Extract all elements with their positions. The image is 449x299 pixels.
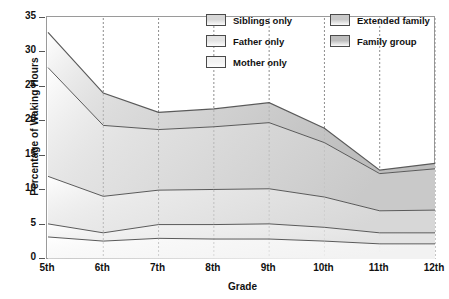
y-tick-mark-10 <box>39 189 45 190</box>
y-tick-mark-35 <box>39 17 45 18</box>
y-tick-label-20: 20 <box>0 113 36 124</box>
x-tick-label-6th: 6th <box>77 262 127 273</box>
x-tick-label-9th: 9th <box>243 262 293 273</box>
y-axis-title: Percentage of Waking Hours <box>29 27 40 227</box>
legend-item-extended-family: Extended family <box>330 14 430 26</box>
legend-label-father-only: Father only <box>233 36 284 47</box>
x-tick-label-7th: 7th <box>133 262 183 273</box>
y-tick-label-35: 35 <box>0 10 36 21</box>
x-tick-label-11th: 11th <box>354 262 404 273</box>
legend-swatch-extended-family <box>330 14 350 26</box>
legend-item-family-group: Family group <box>330 35 417 47</box>
legend: Siblings only Extended family Father onl… <box>206 14 434 72</box>
y-tick-label-25: 25 <box>0 79 36 90</box>
legend-label-mother-only: Mother only <box>233 57 287 68</box>
legend-swatch-mother-only <box>206 56 226 68</box>
y-tick-label-5: 5 <box>0 217 36 228</box>
x-tick-label-10th: 10th <box>298 262 348 273</box>
x-tick-label-8th: 8th <box>188 262 238 273</box>
x-tick-label-5th: 5th <box>22 262 72 273</box>
y-tick-mark-25 <box>39 86 45 87</box>
y-tick-mark-30 <box>39 51 45 52</box>
y-tick-mark-20 <box>39 120 45 121</box>
x-axis-title: Grade <box>45 281 440 292</box>
legend-item-father-only: Father only <box>206 35 284 47</box>
y-tick-mark-15 <box>39 155 45 156</box>
y-tick-label-30: 30 <box>0 44 36 55</box>
x-tick-label-12th: 12th <box>409 262 449 273</box>
legend-swatch-father-only <box>206 35 226 47</box>
legend-label-family-group: Family group <box>357 36 417 47</box>
legend-swatch-family-group <box>330 35 350 47</box>
legend-swatch-siblings-only <box>206 14 226 26</box>
legend-item-mother-only: Mother only <box>206 56 287 68</box>
y-tick-mark-0 <box>39 258 45 259</box>
y-tick-label-10: 10 <box>0 182 36 193</box>
legend-label-extended-family: Extended family <box>357 15 430 26</box>
legend-label-siblings-only: Siblings only <box>233 15 292 26</box>
y-tick-label-15: 15 <box>0 148 36 159</box>
y-tick-mark-5 <box>39 224 45 225</box>
y-tick-label-0: 0 <box>0 251 36 262</box>
legend-item-siblings-only: Siblings only <box>206 14 292 26</box>
